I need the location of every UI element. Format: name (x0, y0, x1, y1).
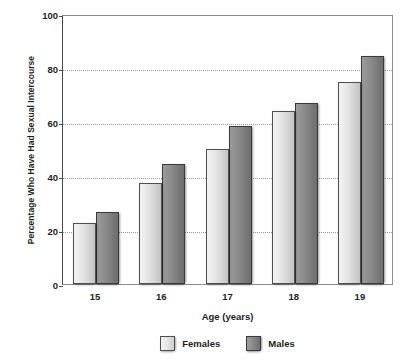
bar-males-19 (361, 56, 384, 284)
x-axis-tick-label: 15 (90, 291, 101, 302)
y-axis-tick-mark (59, 70, 63, 71)
y-axis-tick-label: 80 (18, 64, 58, 75)
legend-item-males[interactable]: Males (246, 336, 294, 351)
y-axis-tick-mark (59, 16, 63, 17)
y-axis-tick-mark (59, 286, 63, 287)
legend-item-females[interactable]: Females (160, 336, 220, 351)
bar-males-17 (229, 126, 252, 284)
legend-label: Males (268, 338, 294, 349)
bar-group (73, 16, 119, 284)
bar-females-15 (73, 223, 96, 284)
y-axis-tick-labels: 020406080100 (14, 0, 58, 363)
bar-group (139, 16, 185, 284)
y-axis-tick-mark (59, 178, 63, 179)
bar-females-18 (272, 111, 295, 284)
y-axis-tick-label: 60 (18, 118, 58, 129)
x-axis-tick-label: 17 (222, 291, 233, 302)
y-axis-tick-label: 100 (18, 10, 58, 21)
bar-females-19 (338, 82, 361, 285)
y-axis-tick-label: 20 (18, 226, 58, 237)
bar-chart-figure: Percentage Who Have Had Sexual Intercour… (0, 0, 403, 363)
bar-males-18 (295, 103, 318, 284)
x-axis-tick-label: 19 (355, 291, 366, 302)
x-axis-title: Age (years) (62, 311, 393, 322)
legend-label: Females (182, 338, 220, 349)
y-axis-tick-label: 0 (18, 280, 58, 291)
legend-swatch-males-icon (246, 336, 261, 351)
bar-females-17 (206, 149, 229, 284)
x-axis-tick-label: 16 (156, 291, 167, 302)
y-axis-tick-mark (59, 232, 63, 233)
y-axis-tick-mark (59, 124, 63, 125)
bar-group (206, 16, 252, 284)
y-axis-tick-label: 40 (18, 172, 58, 183)
chart-legend: FemalesMales (62, 336, 393, 351)
plot-inner (63, 16, 392, 284)
bar-group (338, 16, 384, 284)
bar-group (272, 16, 318, 284)
bar-females-16 (139, 183, 162, 284)
legend-swatch-females-icon (160, 336, 175, 351)
plot-area (62, 15, 393, 285)
x-axis-tick-label: 18 (288, 291, 299, 302)
bar-males-15 (96, 212, 119, 284)
bar-males-16 (162, 164, 185, 284)
